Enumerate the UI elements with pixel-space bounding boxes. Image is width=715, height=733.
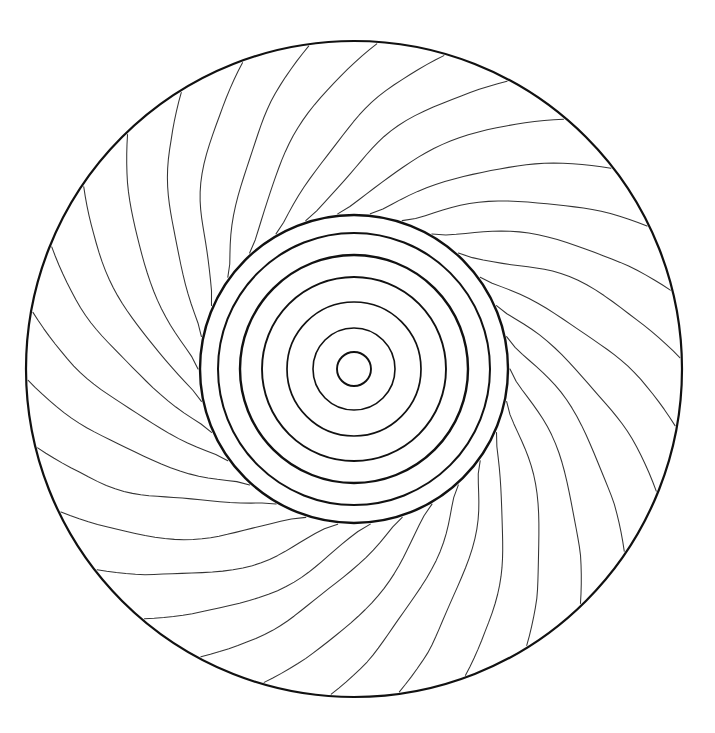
illustration-canvas <box>0 0 715 733</box>
mandala-figure <box>0 0 715 733</box>
background <box>0 0 715 733</box>
